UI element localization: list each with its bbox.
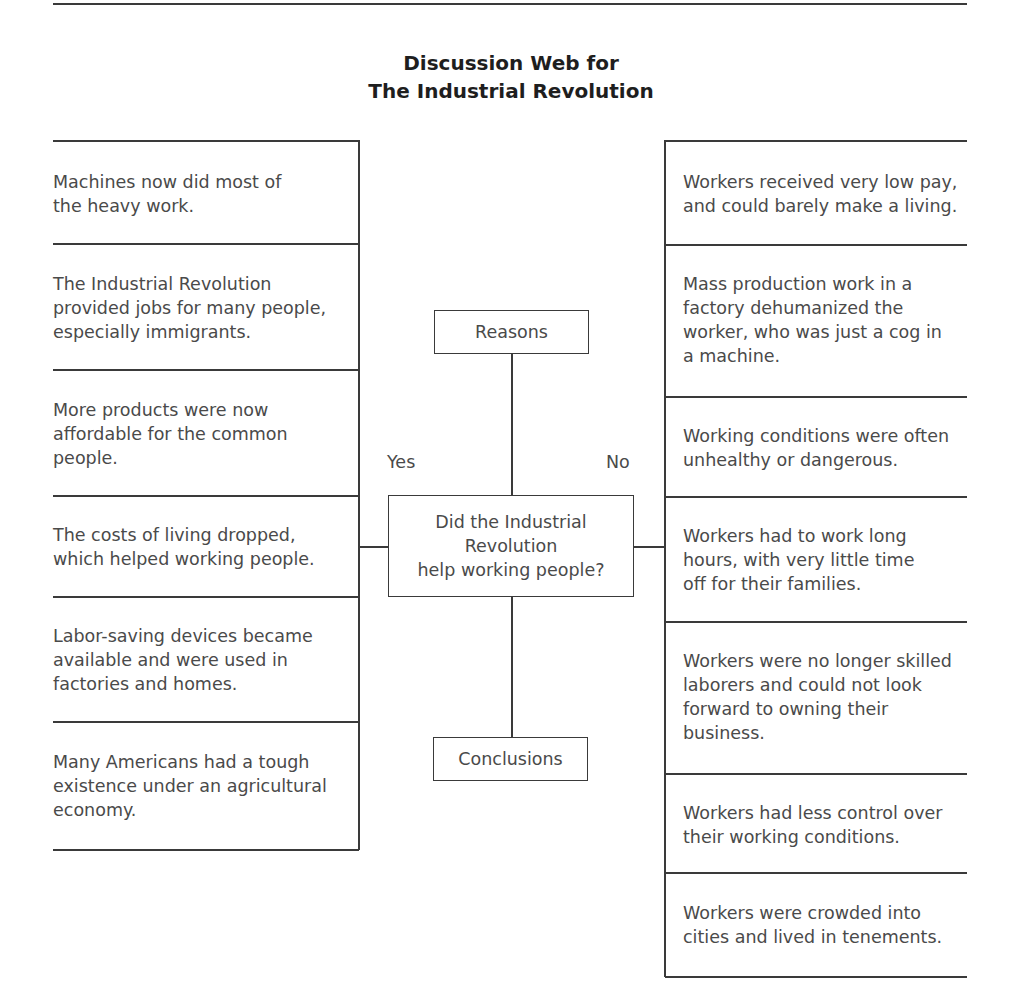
yes-reason: Many Americans had a tough existence und… <box>53 750 327 822</box>
no-connector <box>633 546 665 548</box>
question-box: Did the Industrial Revolution help worki… <box>388 495 634 597</box>
no-column-edge <box>664 140 666 977</box>
yes-reason: The costs of living dropped, which helpe… <box>53 523 315 571</box>
no-reason: Mass production work in a factory dehuma… <box>683 272 942 368</box>
no-divider <box>665 496 967 498</box>
no-reason: Workers were crowded into cities and liv… <box>683 901 942 949</box>
yes-label: Yes <box>387 450 415 474</box>
conclusions-connector <box>511 596 513 738</box>
top-rule <box>53 3 967 5</box>
no-label: No <box>606 450 630 474</box>
yes-reason: Labor-saving devices became available an… <box>53 624 313 696</box>
reasons-box: Reasons <box>434 310 589 354</box>
yes-reason: Machines now did most of the heavy work. <box>53 170 281 218</box>
title-line-2: The Industrial Revolution <box>0 77 1011 105</box>
yes-divider <box>53 140 359 142</box>
yes-connector <box>359 546 389 548</box>
no-reason: Workers had to work long hours, with ver… <box>683 524 914 596</box>
title-line-1: Discussion Web for <box>0 49 1011 77</box>
yes-divider <box>53 369 359 371</box>
yes-reason: The Industrial Revolution provided jobs … <box>53 272 326 344</box>
yes-reason: More products were now affordable for th… <box>53 398 288 470</box>
yes-divider <box>53 596 359 598</box>
no-divider <box>665 872 967 874</box>
reasons-connector <box>511 353 513 496</box>
yes-divider <box>53 721 359 723</box>
no-reason: Working conditions were often unhealthy … <box>683 424 949 472</box>
yes-divider <box>53 849 359 851</box>
no-divider <box>665 396 967 398</box>
no-divider <box>665 244 967 246</box>
no-reason: Workers were no longer skilled laborers … <box>683 649 952 745</box>
page-title: Discussion Web for The Industrial Revolu… <box>0 49 1011 105</box>
no-divider <box>665 140 967 142</box>
conclusions-box: Conclusions <box>433 737 588 781</box>
no-reason: Workers had less control over their work… <box>683 801 943 849</box>
yes-divider <box>53 495 359 497</box>
no-reason: Workers received very low pay, and could… <box>683 170 957 218</box>
yes-column-edge <box>358 140 360 850</box>
no-divider <box>665 976 967 978</box>
no-divider <box>665 621 967 623</box>
no-divider <box>665 773 967 775</box>
yes-divider <box>53 243 359 245</box>
